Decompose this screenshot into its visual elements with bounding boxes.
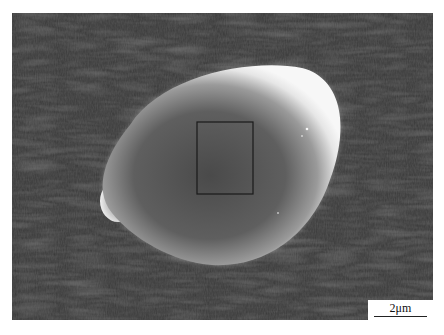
scale-bar: 2μm <box>368 300 433 320</box>
micrograph-graphic <box>12 13 433 320</box>
scale-bar-label: 2μm <box>368 301 433 316</box>
sem-micrograph: 2μm <box>12 13 433 320</box>
scale-bar-line <box>374 316 427 317</box>
